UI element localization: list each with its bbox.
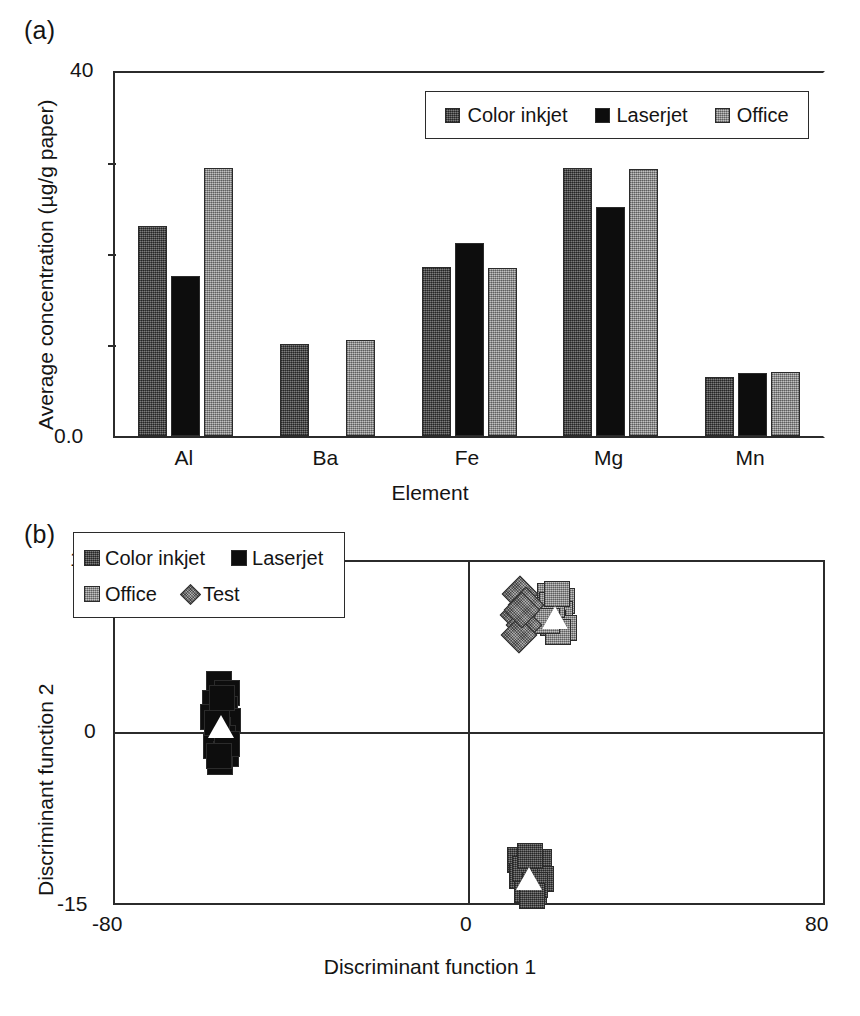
bar-mg-color-inkjet (563, 168, 592, 436)
panel-b-legend-row-2: Office Test (84, 576, 334, 612)
bar-fe-office (488, 268, 517, 436)
legend-item-test: Test (183, 583, 240, 606)
scatter-point-color-inkjet (517, 843, 543, 869)
panel-b-label: (b) (24, 520, 55, 549)
panel-a-x-tick-mn: Mn (728, 446, 772, 470)
bar-mg-laserjet (596, 207, 625, 436)
legend-label-test: Test (203, 583, 240, 606)
panel-a-x-tick-mg: Mg (587, 446, 631, 470)
panel-b-vertical-zero-axis (468, 562, 470, 903)
laserjet-swatch-icon (231, 550, 247, 566)
bar-al-laserjet (171, 276, 200, 436)
panel-a-y-minor-tick-30 (108, 163, 116, 165)
legend-item-office: Office (715, 104, 789, 127)
office-swatch-icon (84, 586, 100, 602)
scatter-point-office (544, 581, 570, 607)
panel-a-y-tick-top: 40 (70, 58, 93, 82)
panel-b-y-tick-bottom: -15 (57, 892, 87, 916)
legend-label-color-inkjet: Color inkjet (467, 104, 567, 127)
centroid-marker-color-inkjet (516, 867, 542, 890)
panel-a-legend: Color inkjet Laserjet Office (425, 91, 809, 139)
panel-a-x-axis-title: Element (0, 481, 860, 505)
centroid-marker-laserjet (208, 715, 234, 738)
panel-b-legend: Color inkjet Laserjet Office Test (73, 532, 345, 618)
office-swatch-icon (715, 108, 730, 123)
panel-a-x-tick-al: Al (162, 446, 206, 470)
scatter-point-laserjet (209, 685, 235, 711)
inkjet-swatch-icon (84, 550, 100, 566)
legend-item-laserjet: Laserjet (231, 547, 323, 570)
legend-label-office: Office (737, 104, 789, 127)
panel-a-y-minor-tick-10 (108, 345, 116, 347)
panel-a-y-tick-bottom: 0.0 (54, 424, 83, 448)
panel-b-scatter-chart: (b) Discriminant function 2 15 0 -15 Col… (0, 508, 860, 1016)
panel-b-y-tick-mid: 0 (84, 719, 96, 743)
panel-b-x-tick-right: 80 (805, 912, 828, 936)
bar-al-office (204, 168, 233, 436)
laserjet-swatch-icon (595, 108, 610, 123)
panel-b-x-tick-mid: 0 (460, 912, 472, 936)
legend-label-office: Office (105, 583, 157, 606)
bar-ba-office (346, 340, 375, 436)
panel-b-x-axis-title: Discriminant function 1 (0, 955, 860, 979)
bar-mn-color-inkjet (705, 377, 734, 436)
inkjet-swatch-icon (445, 108, 460, 123)
bar-mg-office (629, 169, 658, 436)
legend-label-color-inkjet: Color inkjet (105, 547, 205, 570)
test-diamond-swatch-icon (180, 583, 201, 604)
bar-mn-laserjet (738, 373, 767, 436)
bar-fe-color-inkjet (422, 267, 451, 436)
bar-al-color-inkjet (138, 226, 167, 436)
legend-item-color-inkjet: Color inkjet (84, 547, 205, 570)
panel-b-y-axis-title: Discriminant function 2 (34, 684, 58, 896)
panel-b-legend-row-1: Color inkjet Laserjet (84, 540, 334, 576)
centroid-marker-office (542, 606, 568, 629)
legend-item-color-inkjet: Color inkjet (445, 104, 567, 127)
panel-a-bar-chart: (a) Average concentration (µg/g paper) 4… (0, 0, 860, 508)
bar-ba-color-inkjet (280, 344, 309, 436)
panel-a-label: (a) (24, 16, 55, 45)
panel-b-x-tick-left: -80 (92, 912, 122, 936)
panel-a-x-tick-fe: Fe (445, 446, 489, 470)
bar-fe-laserjet (455, 243, 484, 436)
legend-label-laserjet: Laserjet (617, 104, 688, 127)
legend-item-office: Office (84, 583, 157, 606)
panel-a-y-minor-tick-20 (108, 254, 116, 256)
panel-a-x-tick-ba: Ba (303, 446, 347, 470)
panel-a-y-axis-title: Average concentration (µg/g paper) (34, 100, 58, 430)
legend-label-laserjet: Laserjet (252, 547, 323, 570)
bar-mn-office (771, 372, 800, 436)
legend-item-laserjet: Laserjet (595, 104, 688, 127)
scatter-point-laserjet (206, 743, 232, 769)
